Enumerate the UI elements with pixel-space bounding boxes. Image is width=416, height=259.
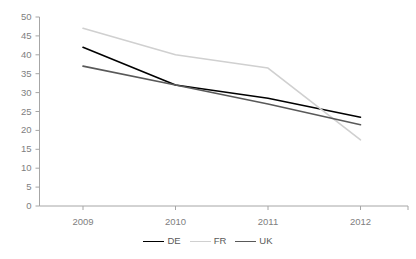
legend-swatch-de [143,241,164,242]
chart-legend: DEFRUK [0,236,416,246]
legend-item-de[interactable]: DE [143,236,180,246]
y-axis-tick-label: 45 [6,31,32,41]
legend-label-uk: UK [259,236,272,246]
x-axis-tick-label: 2012 [338,217,384,227]
legend-item-uk[interactable]: UK [235,236,272,246]
legend-swatch-fr [190,241,211,242]
legend-label-fr: FR [214,236,227,246]
series-line-fr [83,28,361,140]
y-axis-tick-label: 35 [6,69,32,79]
x-axis-tick-label: 2009 [60,217,106,227]
legend-item-fr[interactable]: FR [190,236,227,246]
y-axis-tick-label: 10 [6,163,32,173]
x-axis-tick-label: 2011 [245,217,291,227]
line-chart: 05101520253035404550 2009201020112012 DE… [0,0,416,259]
chart-series-lines [83,28,361,140]
y-axis-tick-label: 20 [6,125,32,135]
legend-label-de: DE [167,236,180,246]
y-axis-tick-label: 30 [6,88,32,98]
chart-axes [36,17,409,210]
y-axis-tick-label: 40 [6,50,32,60]
y-axis-tick-label: 0 [6,201,32,211]
y-axis-tick-label: 50 [6,12,32,22]
series-line-uk [83,66,361,125]
x-axis-tick-label: 2010 [153,217,199,227]
legend-swatch-uk [235,241,256,242]
y-axis-tick-label: 5 [6,182,32,192]
y-axis-tick-label: 25 [6,107,32,117]
y-axis-tick-label: 15 [6,144,32,154]
